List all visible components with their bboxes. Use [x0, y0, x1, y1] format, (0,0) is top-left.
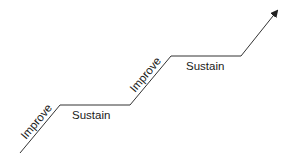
label-sustain-2: Sustain [186, 60, 224, 72]
label-improve-1: Improve [18, 102, 54, 142]
staircase-path [20, 11, 277, 153]
label-improve-2: Improve [127, 55, 163, 95]
label-sustain-1: Sustain [72, 109, 110, 121]
staircase-diagram: Improve Sustain Improve Sustain [0, 0, 291, 166]
